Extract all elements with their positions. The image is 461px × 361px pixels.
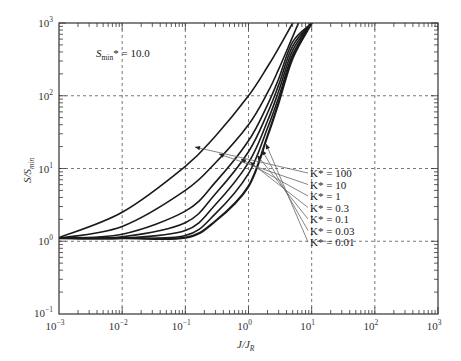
curve-1 — [59, 12, 323, 239]
y-tick-label: 103 — [38, 15, 53, 29]
y-tick-label: 102 — [38, 88, 53, 102]
y-axis-title: S/Smin — [21, 157, 36, 183]
tick-labels: 10−310−210−110010110210310−1100101102103 — [34, 15, 442, 332]
gridlines — [59, 23, 438, 314]
curve-0.1 — [59, 7, 323, 239]
annotation-smin: Smin* = 10.0 — [96, 47, 150, 62]
legend-label: K* = 0.01 — [310, 236, 354, 248]
curve-100 — [59, 8, 301, 238]
legend-label: K* = 0.1 — [310, 213, 349, 225]
curves — [59, 2, 323, 239]
legend-label: K* = 10 — [310, 179, 347, 191]
curve-0.3 — [59, 9, 323, 238]
legend-arrow — [219, 154, 308, 185]
arrowhead-icon — [195, 146, 200, 150]
x-tick-label: 10−1 — [172, 318, 191, 332]
x-tick-label: 103 — [427, 318, 442, 332]
log-log-chart: 10−310−210−110010110210310−1100101102103… — [0, 0, 461, 361]
x-tick-label: 10−3 — [46, 318, 65, 332]
y-tick-label: 100 — [38, 233, 53, 247]
legend-label: K* = 0.3 — [310, 202, 349, 214]
x-tick-label: 101 — [300, 318, 315, 332]
legend-arrow — [257, 155, 308, 219]
legend-label: K* = 0.03 — [310, 225, 355, 237]
curve-0.01 — [59, 2, 323, 239]
y-tick-label: 10−1 — [34, 305, 53, 319]
legend-arrow — [262, 150, 308, 231]
x-tick-label: 10−2 — [109, 318, 128, 332]
x-tick-label: 100 — [237, 318, 252, 332]
legend-label: K* = 1 — [310, 190, 341, 202]
x-axis-title: J/JR — [237, 338, 255, 353]
legend-label: K* = 100 — [310, 167, 352, 179]
x-tick-label: 102 — [363, 318, 378, 332]
legend: K* = 100K* = 10K* = 1K* = 0.3K* = 0.1K* … — [310, 167, 355, 248]
y-tick-label: 101 — [38, 161, 53, 175]
legend-arrow — [266, 144, 308, 242]
